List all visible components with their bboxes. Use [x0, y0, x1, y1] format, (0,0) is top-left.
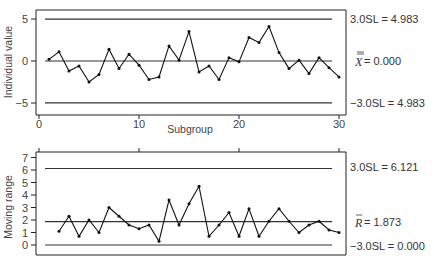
data-point — [278, 51, 281, 54]
data-point — [138, 64, 141, 67]
top-center-symbol: X — [354, 55, 363, 69]
data-point — [268, 25, 271, 28]
data-point — [228, 56, 231, 59]
top-x-tick-label: 10 — [133, 118, 145, 130]
data-point — [68, 215, 71, 218]
data-point — [168, 44, 171, 47]
data-point — [88, 219, 91, 222]
top-x-tick-label: 0 — [36, 118, 42, 130]
data-point — [318, 220, 321, 223]
data-point — [258, 235, 261, 238]
top-y-tick-label: −5 — [15, 97, 28, 109]
bottom-plot-frame — [36, 152, 346, 255]
data-point — [308, 72, 311, 75]
data-point — [238, 235, 241, 238]
data-point — [98, 73, 101, 76]
data-point — [208, 65, 211, 68]
data-point — [188, 30, 191, 33]
data-point — [288, 220, 291, 223]
data-point — [208, 235, 211, 238]
bottom-center-label: R = 1.873 — [354, 215, 401, 230]
data-point — [168, 199, 171, 202]
top-lcl-label: −3.0SL = 4.983 — [350, 97, 425, 109]
data-point — [148, 78, 151, 81]
moving-range-series — [59, 186, 339, 241]
data-point — [288, 67, 291, 70]
data-point — [118, 67, 121, 70]
data-point — [58, 50, 61, 53]
bottom-y-tick-label: 3 — [22, 202, 28, 214]
data-point — [328, 229, 331, 232]
data-point — [218, 224, 221, 227]
data-point — [298, 231, 301, 234]
data-point — [268, 220, 271, 223]
data-point — [138, 227, 141, 230]
data-point — [308, 224, 311, 227]
data-point — [218, 78, 221, 81]
bottom-y-tick-label: 0 — [22, 239, 28, 251]
data-point — [278, 207, 281, 210]
top-y-tick-label: 0 — [22, 55, 28, 67]
data-point — [98, 231, 101, 234]
data-point — [68, 70, 71, 73]
bottom-y-tick-label: 4 — [22, 189, 28, 201]
bottom-y-tick-label: 6 — [22, 164, 28, 176]
data-point — [228, 211, 231, 214]
bottom-center-symbol: R — [354, 216, 363, 230]
top-y-tick-label: 5 — [22, 13, 28, 25]
top-y-axis-label: Individual value — [2, 26, 14, 99]
data-point — [178, 59, 181, 62]
individual-value-series — [49, 27, 339, 82]
data-point — [108, 206, 111, 209]
data-point — [198, 70, 201, 73]
bottom-ucl-label: 3.0SL = 6.121 — [350, 161, 418, 173]
data-point — [188, 202, 191, 205]
data-point — [328, 66, 331, 69]
data-point — [118, 215, 121, 218]
data-point — [248, 207, 251, 210]
bottom-lcl-label: −3.0SL = 0.000 — [350, 240, 425, 252]
top-x-tick-label: 30 — [333, 118, 345, 130]
bottom-y-tick-label: 7 — [22, 152, 28, 164]
moving-range-chart: 76543210 Moving range 3.0SL = 6.121 R = … — [2, 148, 425, 255]
individual-value-points — [48, 25, 341, 83]
top-center-label: X = 0.000 — [354, 52, 401, 69]
top-x-tick-label: 20 — [233, 118, 245, 130]
bottom-y-tick-label: 2 — [22, 214, 28, 226]
data-point — [298, 59, 301, 62]
data-point — [318, 56, 321, 59]
data-point — [148, 224, 151, 227]
data-point — [128, 224, 131, 227]
data-point — [258, 41, 261, 44]
individuals-chart: 50−50102030 Individual value Subgroup 3.… — [2, 10, 425, 135]
bottom-y-tick-label: 1 — [22, 227, 28, 239]
data-point — [78, 65, 81, 68]
data-point — [248, 36, 251, 39]
data-point — [238, 60, 241, 63]
data-point — [158, 75, 161, 78]
top-center-value: = 0.000 — [364, 55, 401, 67]
top-x-axis-label: Subgroup — [167, 123, 213, 135]
data-point — [48, 58, 51, 61]
bottom-axis-ticks: 76543210 — [22, 148, 339, 251]
data-point — [338, 75, 341, 78]
data-point — [78, 235, 81, 238]
bottom-y-axis-label: Moving range — [2, 175, 14, 239]
bottom-center-value: = 1.873 — [364, 216, 401, 228]
moving-range-points — [58, 185, 341, 243]
data-point — [128, 53, 131, 56]
data-point — [178, 224, 181, 227]
top-plot-frame — [36, 10, 346, 115]
data-point — [198, 185, 201, 188]
data-point — [338, 231, 341, 234]
top-ucl-label: 3.0SL = 4.983 — [350, 13, 418, 25]
data-point — [58, 230, 61, 233]
data-point — [88, 81, 91, 84]
top-axis-ticks: 50−50102030 — [15, 13, 345, 130]
bottom-y-tick-label: 5 — [22, 177, 28, 189]
data-point — [158, 240, 161, 243]
data-point — [108, 48, 111, 51]
control-chart: 50−50102030 Individual value Subgroup 3.… — [0, 0, 434, 266]
